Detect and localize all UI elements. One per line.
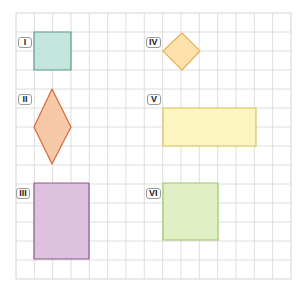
shape-i-square	[34, 32, 71, 70]
shape-iii-rectangle	[34, 183, 89, 259]
shapes-layer	[34, 32, 256, 259]
shape-label-vi: VI	[146, 188, 161, 199]
shape-label-v: V	[147, 94, 161, 105]
shape-ii-rhombus	[34, 89, 71, 164]
shape-v-rectangle	[163, 108, 256, 146]
shape-label-i: I	[18, 37, 32, 48]
shape-label-iv: IV	[146, 37, 161, 48]
shape-vi-square	[163, 183, 218, 240]
shape-label-iii: III	[16, 188, 30, 199]
shape-label-ii: II	[18, 94, 32, 105]
shape-iv-rotated-square	[163, 33, 200, 70]
